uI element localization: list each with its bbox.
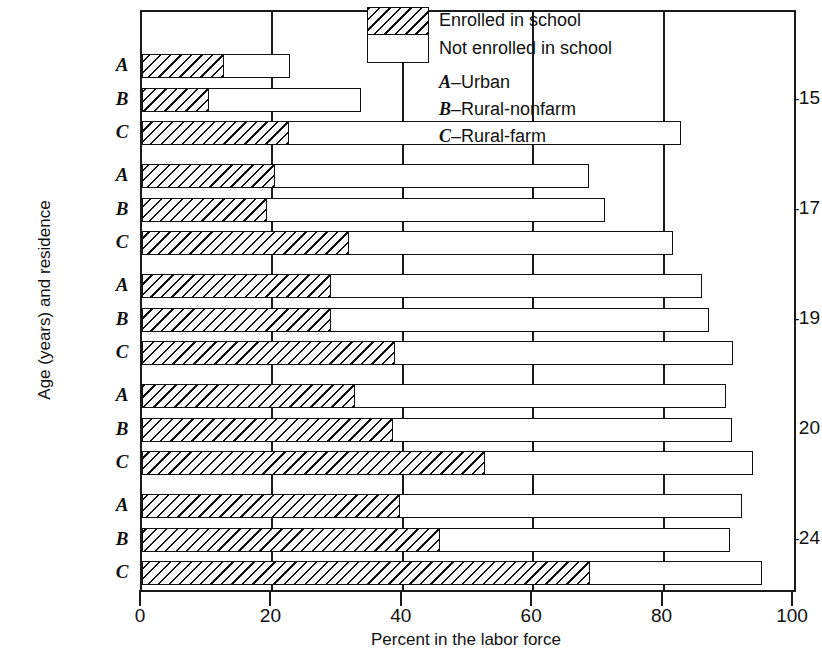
x-tick-label-80: 80: [632, 606, 692, 625]
bar-segment-not-enrolled: [588, 561, 762, 585]
series-label-21–24-C: C: [112, 561, 132, 583]
series-label-14–15-A: A: [112, 54, 132, 76]
series-label-21–24-B: B: [112, 528, 132, 550]
series-label-16–17-A: A: [112, 164, 132, 186]
bar-segment-enrolled: [142, 341, 395, 365]
bar-row: [142, 198, 605, 222]
bar-segment-not-enrolled: [329, 308, 708, 332]
bar-segment-enrolled: [142, 308, 331, 332]
bar-row: [142, 561, 762, 585]
x-tick-0: [139, 590, 141, 606]
legend-key-c-letter: C: [439, 126, 451, 146]
x-tick-80: [661, 590, 663, 606]
legend-swatch-not-enrolled: [368, 35, 428, 62]
legend-key-c: C–Rural-farm: [439, 123, 546, 150]
series-label-16–17-C: C: [112, 231, 132, 253]
x-tick-100: [791, 590, 793, 606]
bar-segment-not-enrolled: [438, 528, 730, 552]
legend-swatch-box: [367, 7, 429, 63]
series-label-14–15-B: B: [112, 88, 132, 110]
bar-segment-not-enrolled: [273, 164, 589, 188]
series-label-18–19-B: B: [112, 308, 132, 330]
bar-row: [142, 164, 589, 188]
bar-row: [142, 231, 673, 255]
bar-segment-not-enrolled: [393, 341, 732, 365]
bar-segment-not-enrolled: [348, 231, 673, 255]
x-tick-20: [269, 590, 271, 606]
x-tick-label-60: 60: [501, 606, 561, 625]
legend-key-b-dash: –: [451, 99, 461, 119]
bar-segment-enrolled: [142, 231, 349, 255]
bar-segment-not-enrolled: [483, 451, 753, 475]
bar-segment-enrolled: [142, 528, 440, 552]
bar-segment-enrolled: [142, 418, 393, 442]
bar-row: [142, 528, 730, 552]
x-tick-label-40: 40: [371, 606, 431, 625]
bar-row: [142, 121, 681, 145]
bar-segment-not-enrolled: [391, 418, 732, 442]
bar-segment-enrolled: [142, 561, 590, 585]
bar-segment-enrolled: [142, 198, 267, 222]
series-label-14–15-C: C: [112, 121, 132, 143]
y-axis-title: Age (years) and residence: [35, 150, 55, 450]
legend-key-a-letter: A: [439, 72, 451, 92]
series-label-18–19-C: C: [112, 341, 132, 363]
bar-segment-enrolled: [142, 164, 275, 188]
bar-row: [142, 341, 733, 365]
bar-row: [142, 88, 361, 112]
bar-segment-enrolled: [142, 54, 224, 78]
x-tick-label-20: 20: [240, 606, 300, 625]
bar-segment-not-enrolled: [222, 54, 290, 78]
series-label-18–19-A: A: [112, 274, 132, 296]
series-label-20-A: A: [112, 384, 132, 406]
series-label-20-C: C: [112, 451, 132, 473]
bar-row: [142, 494, 742, 518]
bar-row: [142, 451, 753, 475]
bar-segment-not-enrolled: [266, 198, 605, 222]
legend-key-b-letter: B: [439, 99, 451, 119]
x-tick-40: [400, 590, 402, 606]
bar-segment-enrolled: [142, 121, 289, 145]
legend-key-b: B–Rural-nonfarm: [439, 96, 576, 123]
x-tick-label-100: 100: [762, 606, 822, 625]
bar-row: [142, 384, 726, 408]
bar-segment-enrolled: [142, 451, 485, 475]
bar-row: [142, 418, 732, 442]
series-label-21–24-A: A: [112, 494, 132, 516]
bar-segment-enrolled: [142, 384, 355, 408]
legend-swatch-enrolled: [368, 8, 428, 35]
bar-segment-enrolled: [142, 274, 331, 298]
legend-key-a-dash: –: [451, 72, 461, 92]
bar-row: [142, 54, 290, 78]
x-axis-title: Percent in the labor force: [140, 630, 792, 650]
series-label-16–17-B: B: [112, 198, 132, 220]
legend-label-enrolled: Enrolled in school: [439, 6, 581, 34]
legend-key-a-label: Urban: [461, 72, 510, 92]
bar-segment-not-enrolled: [208, 88, 362, 112]
legend-key-a: A–Urban: [439, 69, 510, 96]
legend-key-c-dash: –: [451, 126, 461, 146]
bar-segment-enrolled: [142, 494, 400, 518]
x-tick-60: [530, 590, 532, 606]
bar-row: [142, 308, 709, 332]
bar-segment-enrolled: [142, 88, 209, 112]
bar-segment-not-enrolled: [399, 494, 742, 518]
legend-key-b-label: Rural-nonfarm: [461, 99, 576, 119]
series-label-20-B: B: [112, 418, 132, 440]
bar-segment-not-enrolled: [354, 384, 727, 408]
bar-row: [142, 274, 702, 298]
bar-segment-not-enrolled: [329, 274, 702, 298]
legend-key-c-label: Rural-farm: [461, 126, 546, 146]
legend-label-not-enrolled: Not enrolled in school: [439, 34, 612, 62]
x-tick-label-0: 0: [110, 606, 170, 625]
